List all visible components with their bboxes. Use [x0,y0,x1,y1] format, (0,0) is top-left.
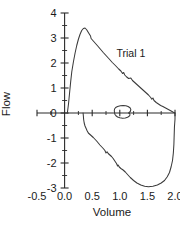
x-tick-label: -0.5 [28,190,47,202]
series-curve-1 [83,113,175,187]
y-tick-label: 4 [50,7,56,19]
y-axis-tick-labels: -3-2-101234 [47,7,57,194]
x-axis-title: Volume [93,206,131,218]
series-curve-0 [67,28,175,113]
x-tick-label: 2.0 [167,190,180,202]
y-axis-title: Flow [0,91,12,116]
series-curve-2 [114,106,131,119]
annotation-label-0: Trial 1 [116,47,145,59]
chart-annotations: Trial 1 [116,47,145,59]
y-tick-label: -3 [47,182,57,194]
y-tick-label: 3 [50,32,56,44]
y-tick-label: 2 [50,57,56,69]
x-tick-label: 1.0 [112,190,127,202]
x-tick-label: 0.0 [57,190,72,202]
y-tick-label: 1 [50,82,56,94]
x-tick-label: 0.5 [85,190,100,202]
y-tick-label: -1 [47,132,57,144]
y-tick-label: -2 [47,157,57,169]
y-axis: -3-2-101234 [47,7,69,194]
flow-volume-loop-figure: -3-2-101234 -0.50.00.51.01.52.0 Trial 1 … [0,0,180,228]
x-tick-label: 1.5 [140,190,155,202]
chart-canvas: -3-2-101234 -0.50.00.51.01.52.0 Trial 1 … [0,0,180,228]
